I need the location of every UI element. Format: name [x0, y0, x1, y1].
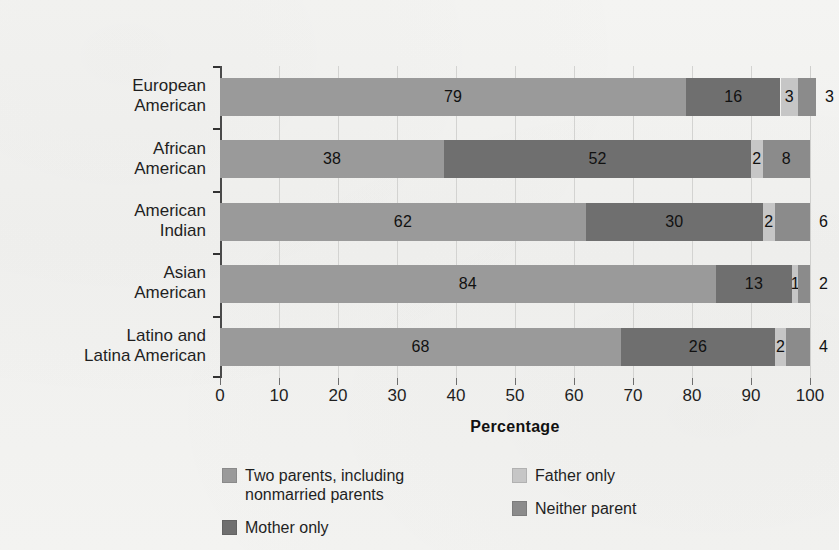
bar-segment-value: 2: [776, 339, 785, 355]
bar-segment-value: 26: [689, 339, 707, 355]
bar-segment[interactable]: 6: [775, 203, 810, 241]
legend-item[interactable]: Father only: [512, 466, 742, 485]
bar-segment-value: 62: [394, 214, 412, 230]
x-axis-tick-label: 80: [683, 386, 702, 406]
legend-label: Father only: [535, 466, 615, 485]
bar-segment-value: 3: [825, 89, 834, 105]
category-label-line2: Indian: [0, 221, 206, 241]
legend-swatch-father-only: [512, 468, 527, 483]
x-axis-tick-mark: [633, 378, 634, 385]
bar-segment[interactable]: 3: [781, 78, 799, 116]
x-axis-tick-mark: [751, 378, 752, 385]
bar-segment-value: 30: [665, 214, 683, 230]
x-axis-tick-mark: [515, 378, 516, 385]
bar-segment[interactable]: 16: [686, 78, 780, 116]
x-axis-tick-label: 100: [796, 386, 824, 406]
category-label: Asian American: [0, 263, 206, 303]
category-row: 791633: [220, 66, 810, 128]
category-row: 623026: [220, 191, 810, 253]
bar-segment[interactable]: 62: [220, 203, 586, 241]
category-label-line2: American: [0, 283, 206, 303]
category-label-line1: European: [0, 76, 206, 96]
x-axis-title: Percentage: [220, 418, 810, 436]
legend-item[interactable]: Two parents, including nonmarried parent…: [222, 466, 472, 504]
x-axis-tick-label: 10: [270, 386, 289, 406]
x-axis-tick-label: 60: [565, 386, 584, 406]
bar-segment-value: 79: [444, 89, 462, 105]
legend-column: Two parents, including nonmarried parent…: [222, 466, 472, 550]
bar-segment[interactable]: 4: [786, 328, 810, 366]
x-axis-tick-mark: [456, 378, 457, 385]
bar-segment[interactable]: 68: [220, 328, 621, 366]
plot-area: 791633385228623026841312682624: [220, 66, 810, 378]
category-label: European American: [0, 76, 206, 116]
category-label-line2: American: [0, 159, 206, 179]
bar-segment-value: 2: [764, 214, 773, 230]
legend-swatch-mother-only: [222, 520, 237, 535]
x-axis-tick-label: 70: [624, 386, 643, 406]
x-axis-tick-mark: [574, 378, 575, 385]
bar-segment[interactable]: 84: [220, 265, 716, 303]
stacked-bar-chart: European American African American Ameri…: [0, 0, 839, 550]
bar-segment-value: 2: [752, 151, 761, 167]
legend-item[interactable]: Neither parent: [512, 499, 742, 518]
bar-segment-value: 38: [323, 151, 341, 167]
legend-item[interactable]: Mother only: [222, 518, 472, 537]
category-label: American Indian: [0, 201, 206, 241]
bar-segment-value: 3: [785, 89, 794, 105]
bar-segment-value: 6: [819, 214, 828, 230]
category-label-line2: Latina American: [0, 346, 206, 366]
category-label-column: European American African American Ameri…: [0, 66, 206, 378]
x-axis-tick-label: 30: [388, 386, 407, 406]
category-label-line1: Latino and: [0, 326, 206, 346]
category-label-line1: Asian: [0, 263, 206, 283]
bar-segment[interactable]: 13: [716, 265, 793, 303]
category-label: Latino and Latina American: [0, 326, 206, 366]
category-row: 385228: [220, 128, 810, 190]
bar-segment-value: 68: [411, 339, 429, 355]
bar-segment-value: 52: [588, 151, 606, 167]
category-row: 841312: [220, 253, 810, 315]
x-axis-ticks: 0102030405060708090100: [220, 378, 810, 388]
legend-swatch-neither-parent: [512, 501, 527, 516]
bar-segment-value: 84: [459, 276, 477, 292]
bar-segment[interactable]: 8: [763, 140, 810, 178]
x-axis-tick-label: 90: [742, 386, 761, 406]
bar-segment-value: 2: [819, 276, 828, 292]
legend-label: Mother only: [245, 518, 329, 537]
category-label-line1: American: [0, 201, 206, 221]
bar-segment-value: 8: [782, 151, 791, 167]
x-axis-tick-mark: [397, 378, 398, 385]
category-row: 682624: [220, 316, 810, 378]
legend-label: Neither parent: [535, 499, 636, 518]
x-axis-tick-label: 40: [447, 386, 466, 406]
bar-segment-value: 16: [724, 89, 742, 105]
bar-segment[interactable]: 2: [763, 203, 775, 241]
bar-segment-value: 4: [819, 339, 828, 355]
bar-segment[interactable]: 38: [220, 140, 444, 178]
x-axis-tick-mark: [692, 378, 693, 385]
bar-segment-value: 13: [745, 276, 763, 292]
x-axis-tick-mark: [810, 378, 811, 385]
bar-segment[interactable]: 2: [775, 328, 787, 366]
bar-segment[interactable]: 79: [220, 78, 686, 116]
x-axis-tick-mark: [220, 378, 221, 385]
legend-swatch-two-parents: [222, 468, 237, 483]
legend-label: Two parents, including nonmarried parent…: [245, 466, 404, 504]
x-axis-tick-mark: [279, 378, 280, 385]
x-axis-tick-label: 0: [215, 386, 224, 406]
bar-segment[interactable]: 52: [444, 140, 751, 178]
category-label: African American: [0, 139, 206, 179]
bar-segment[interactable]: 30: [586, 203, 763, 241]
x-axis-tick-mark: [338, 378, 339, 385]
bar-segment[interactable]: 2: [798, 265, 810, 303]
category-label-line2: American: [0, 96, 206, 116]
category-label-line1: African: [0, 139, 206, 159]
bar-segment[interactable]: 3: [798, 78, 816, 116]
bar-segment[interactable]: 26: [621, 328, 774, 366]
bar-segment[interactable]: 2: [751, 140, 763, 178]
x-axis-tick-label: 20: [329, 386, 348, 406]
legend-column: Father only Neither parent: [512, 466, 742, 532]
x-axis-tick-label: 50: [506, 386, 525, 406]
